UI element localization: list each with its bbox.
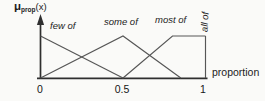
- most-of-label: most of: [155, 15, 186, 25]
- mu-subscript: prop: [21, 6, 35, 13]
- all-of-label: all of: [199, 6, 213, 39]
- x-tick-0_5: 0.5: [115, 84, 130, 95]
- few-of-label: few of: [50, 21, 75, 31]
- x-tick-1: 1: [200, 84, 206, 95]
- fuzzy-quantifiers-figure: μprop(x) few of some of most of all of p…: [0, 0, 265, 101]
- mu-argument: (x): [36, 1, 47, 12]
- some-of-label: some of: [104, 17, 138, 27]
- x-axis-title: proportion: [212, 67, 259, 78]
- mu-symbol: μ: [14, 0, 21, 12]
- x-tick-0: 0: [37, 84, 43, 95]
- y-axis-arrow-icon: [37, 14, 44, 25]
- most-of-line: [123, 36, 206, 78]
- y-axis-label: μprop(x): [14, 1, 47, 14]
